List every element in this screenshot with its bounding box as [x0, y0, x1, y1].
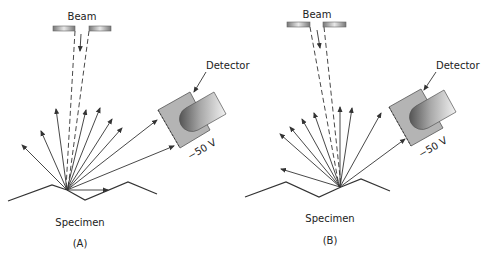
aperture-plate-right [323, 22, 346, 27]
panel-a: Beam Detector −50 [8, 11, 250, 249]
specimen-surface [245, 179, 390, 197]
aperture-plate-left [287, 22, 310, 27]
beam-direction-arrow [317, 30, 320, 48]
aperture-plate-right [89, 26, 111, 31]
panel-caption: (A) [73, 238, 88, 249]
beam-edge-left [310, 27, 339, 186]
specimen-label: Specimen [55, 217, 104, 228]
electron-arrows [280, 107, 405, 187]
beam-direction-arrow [80, 34, 81, 51]
detector-label: Detector [206, 60, 250, 71]
beam-edge-right [68, 31, 89, 188]
specimen-label: Specimen [305, 213, 354, 224]
specimen-surface [8, 182, 157, 201]
electron-arrows [22, 108, 174, 190]
panel-caption: (B) [323, 235, 338, 246]
detector-pointer [194, 72, 206, 92]
detector-label: Detector [436, 60, 480, 71]
panel-b: Beam Detector −50 V Specimen (B) [245, 9, 480, 246]
detector: Detector −50 V [389, 60, 480, 160]
beam-label: Beam [303, 9, 332, 20]
detector-pointer [424, 72, 436, 90]
beam-edge-left [66, 31, 75, 188]
aperture-plate-left [53, 26, 75, 31]
sem-diagram: Beam Detector −50 [0, 0, 489, 259]
beam-label: Beam [68, 11, 97, 22]
